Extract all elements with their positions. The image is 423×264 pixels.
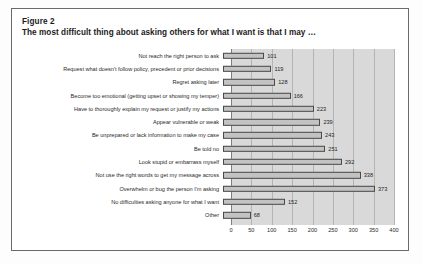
category-label: Other [20, 212, 223, 218]
bar-value-label: 101 [267, 53, 276, 59]
bar-row: Other68 [20, 209, 402, 222]
bar-row: Become too emotional (getting upset or s… [20, 89, 402, 102]
bar-cell: 338 [223, 169, 402, 182]
figure-frame: Figure 2 The most difficult thing about … [11, 8, 409, 251]
bar[interactable] [223, 185, 375, 191]
category-label: Look stupid or embarrass myself [20, 159, 223, 165]
bar-row: Not reach the right person to ask101 [20, 49, 402, 62]
category-label: Have to thoroughly explain my request or… [20, 106, 223, 112]
category-label: Appear vulnerable or weak [20, 119, 223, 125]
x-axis-tick: 200 [308, 227, 317, 233]
category-label: Be told no [20, 146, 223, 152]
category-label: Request what doesn't follow policy, prec… [20, 66, 223, 72]
bar[interactable] [223, 79, 275, 85]
bar-row: Have to thoroughly explain my request or… [20, 102, 402, 115]
bar[interactable] [223, 52, 264, 58]
bar-row: Be unprepared or lack information to mak… [20, 129, 402, 142]
category-label: Become too emotional (getting upset or s… [20, 93, 223, 99]
bar[interactable] [223, 66, 271, 72]
bar[interactable] [223, 92, 291, 98]
bar-cell: 223 [223, 102, 402, 115]
bar-value-label: 239 [323, 119, 332, 125]
bar-cell: 166 [223, 89, 402, 102]
bar-value-label: 166 [294, 93, 303, 99]
bar[interactable] [223, 132, 322, 138]
bar-cell: 239 [223, 115, 402, 128]
bar-row: No difficulties asking anyone for what I… [20, 195, 402, 208]
category-label: Not use the right words to get my messag… [20, 172, 223, 178]
bar-value-label: 338 [364, 172, 373, 178]
bar-cell: 292 [223, 155, 402, 168]
x-axis-tick: 50 [248, 227, 254, 233]
bar-chart: Not reach the right person to ask101Requ… [20, 49, 402, 245]
bar[interactable] [223, 119, 320, 125]
x-axis-tick: 0 [229, 227, 232, 233]
bar-value-label: 251 [328, 146, 337, 152]
bar-cell: 128 [223, 76, 402, 89]
figure-title-block: Figure 2 The most difficult thing about … [22, 16, 398, 38]
bar-row: Not use the right words to get my messag… [20, 169, 402, 182]
bar-row: Request what doesn't follow policy, prec… [20, 62, 402, 75]
figure-caption: The most difficult thing about asking ot… [22, 27, 398, 38]
bar-cell: 119 [223, 62, 402, 75]
figure-page: Figure 2 The most difficult thing about … [0, 0, 423, 264]
bar-cell: 152 [223, 195, 402, 208]
bar-cell: 251 [223, 142, 402, 155]
bar-value-label: 68 [254, 212, 260, 218]
bar[interactable] [223, 106, 314, 112]
x-axis-tick: 100 [267, 227, 276, 233]
bar-cell: 243 [223, 129, 402, 142]
figure-number: Figure 2 [22, 16, 398, 27]
x-axis: 050100150200250300350400 [20, 225, 402, 239]
bar-row: Look stupid or embarrass myself292 [20, 155, 402, 168]
bar-value-label: 152 [288, 199, 297, 205]
bar-row: Be told no251 [20, 142, 402, 155]
bar[interactable] [223, 146, 325, 152]
x-axis-tick: 150 [287, 227, 296, 233]
x-axis-tick: 350 [369, 227, 378, 233]
bar-cell: 68 [223, 209, 402, 222]
bar-row: Overwhelm or bug the person I'm asking37… [20, 182, 402, 195]
bar-value-label: 128 [278, 79, 287, 85]
x-axis-tick: 400 [389, 227, 398, 233]
bar-value-label: 243 [325, 132, 334, 138]
bar-value-label: 292 [345, 159, 354, 165]
bar-value-label: 373 [378, 186, 387, 192]
bar[interactable] [223, 172, 361, 178]
category-label: Regret asking later [20, 79, 223, 85]
bar-value-label: 119 [274, 66, 283, 72]
bar[interactable] [223, 212, 251, 218]
category-label: No difficulties asking anyone for what I… [20, 199, 223, 205]
bar[interactable] [223, 159, 342, 165]
category-label: Not reach the right person to ask [20, 53, 223, 59]
bar[interactable] [223, 199, 285, 205]
category-label: Overwhelm or bug the person I'm asking [20, 186, 223, 192]
x-axis-tick: 300 [349, 227, 358, 233]
category-label: Be unprepared or lack information to mak… [20, 132, 223, 138]
bar-row: Regret asking later128 [20, 76, 402, 89]
bar-cell: 101 [223, 49, 402, 62]
bar-rows: Not reach the right person to ask101Requ… [20, 49, 402, 225]
x-axis-tick: 250 [328, 227, 337, 233]
bar-row: Appear vulnerable or weak239 [20, 115, 402, 128]
bar-value-label: 223 [317, 106, 326, 112]
bar-cell: 373 [223, 182, 402, 195]
